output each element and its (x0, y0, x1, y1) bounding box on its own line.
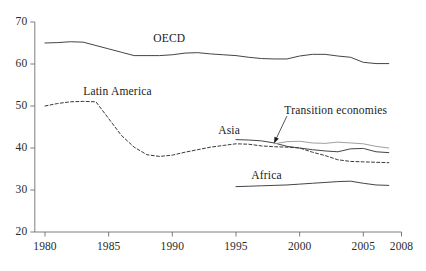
y-axis-tick-label: 20 (1, 225, 27, 237)
series-line-asia (236, 140, 389, 153)
x-axis-tick-label: 1990 (152, 240, 192, 252)
y-axis-tick-label: 30 (1, 183, 27, 195)
annotation-group (274, 116, 287, 143)
x-axis-tick-label: 2000 (280, 240, 320, 252)
chart-plot-area (0, 0, 426, 271)
y-axis-tick-label: 40 (1, 141, 27, 153)
series-line-oecd (45, 42, 389, 64)
x-axis-tick-label: 1980 (25, 240, 65, 252)
x-axis-tick-label: 2008 (382, 240, 422, 252)
line-chart: 706050403020 198019851990199520002005200… (0, 0, 426, 271)
series-line-africa (236, 181, 389, 186)
x-axis-tick-label: 1985 (89, 240, 129, 252)
y-axis-tick-label: 60 (1, 57, 27, 69)
x-axis-tick-label: 1995 (216, 240, 256, 252)
series-label-africa: Africa (251, 169, 282, 181)
y-axis-tick-label: 70 (1, 15, 27, 27)
series-label-oecd: OECD (153, 32, 185, 44)
y-axis-tick-label: 50 (1, 99, 27, 111)
series-label-latin-america: Latin America (83, 85, 152, 97)
x-axis-tick-label: 2005 (343, 240, 383, 252)
series-label-transition-economies: Transition economies (284, 104, 387, 116)
series-label-asia: Asia (218, 124, 240, 136)
